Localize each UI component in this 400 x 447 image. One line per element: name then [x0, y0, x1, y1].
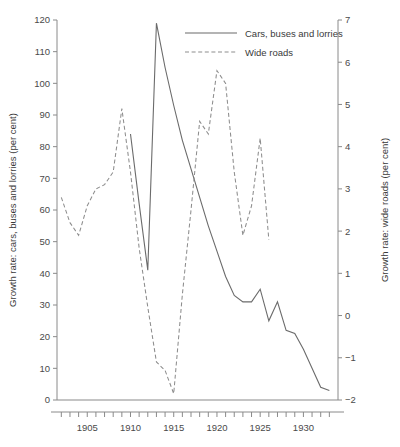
left-axis-tick-label: 40 — [39, 268, 50, 279]
series-line-cars-buses-lorries — [130, 23, 329, 390]
x-axis-tick-label: 1925 — [250, 422, 271, 433]
left-axis-tick-label: 120 — [34, 14, 50, 25]
right-axis-tick-label: 3 — [345, 183, 350, 194]
x-axis-tick-label: 1930 — [293, 422, 314, 433]
left-axis-tick-label: 30 — [39, 299, 50, 310]
legend-label-cars-buses-lorries: Cars, buses and lorries — [245, 28, 343, 39]
left-axis-title: Growth rate: cars, buses and lorries (pe… — [7, 113, 18, 307]
x-axis-tick-label: 1905 — [77, 422, 98, 433]
legend-label-wide-roads: Wide roads — [245, 47, 293, 58]
left-axis-tick-label: 100 — [34, 78, 50, 89]
left-axis-tick-label: 80 — [39, 141, 50, 152]
right-axis-title: Growth rate: wide roads (per cent) — [379, 138, 390, 282]
right-axis-tick-label: −2 — [345, 394, 356, 405]
chart-figure: 0102030405060708090100110120−2−101234567… — [0, 0, 400, 447]
right-axis-tick-label: 2 — [345, 226, 350, 237]
series-line-wide-roads — [61, 71, 269, 394]
left-axis-tick-label: 70 — [39, 173, 50, 184]
right-axis-tick-label: −1 — [345, 352, 356, 363]
x-axis-tick-label: 1915 — [163, 422, 184, 433]
left-axis-tick-label: 60 — [39, 204, 50, 215]
right-axis-tick-label: 1 — [345, 268, 350, 279]
chart-canvas: 0102030405060708090100110120−2−101234567… — [0, 0, 400, 447]
left-axis-tick-label: 20 — [39, 331, 50, 342]
right-axis-tick-label: 5 — [345, 99, 350, 110]
right-axis-tick-label: 0 — [345, 310, 350, 321]
left-axis-tick-label: 0 — [45, 394, 50, 405]
right-axis-tick-label: 4 — [345, 141, 350, 152]
left-axis-tick-label: 90 — [39, 109, 50, 120]
left-axis-tick-label: 10 — [39, 363, 50, 374]
x-axis-tick-label: 1920 — [206, 422, 227, 433]
left-axis-tick-label: 110 — [35, 46, 50, 57]
x-axis-tick-label: 1910 — [120, 422, 141, 433]
right-axis-tick-label: 6 — [345, 57, 350, 68]
left-axis-tick-label: 50 — [39, 236, 50, 247]
right-axis-tick-label: 7 — [345, 14, 350, 25]
